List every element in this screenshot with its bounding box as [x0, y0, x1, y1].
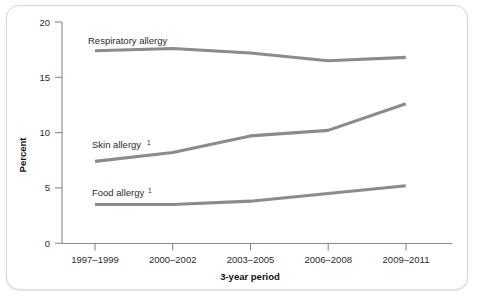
chart-svg: 20 15 10 5 0 Percent 1997–1999 2000–2002… — [0, 0, 477, 301]
y-tick-label-5: 5 — [45, 182, 50, 193]
series-label-respiratory: Respiratory allergy — [88, 35, 167, 46]
x-tick-label-3: 2006–2008 — [304, 254, 352, 265]
x-tick-label-2: 2003–2005 — [227, 254, 275, 265]
series-label-skin: Skin allergy — [92, 139, 141, 150]
series-label-food-footnote: 1 — [148, 187, 152, 194]
line-chart: 20 15 10 5 0 Percent 1997–1999 2000–2002… — [0, 0, 477, 301]
y-tick-label-0: 0 — [45, 238, 50, 249]
series-line-skin — [95, 104, 406, 162]
series-label-food: Food allergy — [92, 187, 145, 198]
y-axis-title: Percent — [17, 137, 28, 173]
series-label-skin-footnote: 1 — [147, 139, 151, 146]
y-tick-label-20: 20 — [39, 17, 50, 28]
series-label-food-group: Food allergy 1 — [92, 187, 152, 199]
x-tick-label-1: 2000–2002 — [149, 254, 197, 265]
x-tick-label-0: 1997–1999 — [71, 254, 119, 265]
y-tick-label-10: 10 — [39, 127, 50, 138]
series-line-respiratory — [95, 49, 406, 61]
series-label-skin-group: Skin allergy 1 — [92, 139, 151, 151]
x-axis-title: 3-year period — [220, 271, 280, 282]
x-tick-label-4: 2009–2011 — [383, 254, 430, 265]
y-tick-label-15: 15 — [39, 72, 50, 83]
